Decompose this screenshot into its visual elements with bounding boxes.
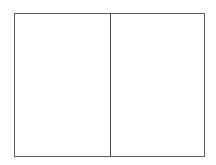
right-panel [111, 14, 204, 156]
two-panel-frame [14, 13, 205, 157]
left-panel [15, 14, 111, 156]
